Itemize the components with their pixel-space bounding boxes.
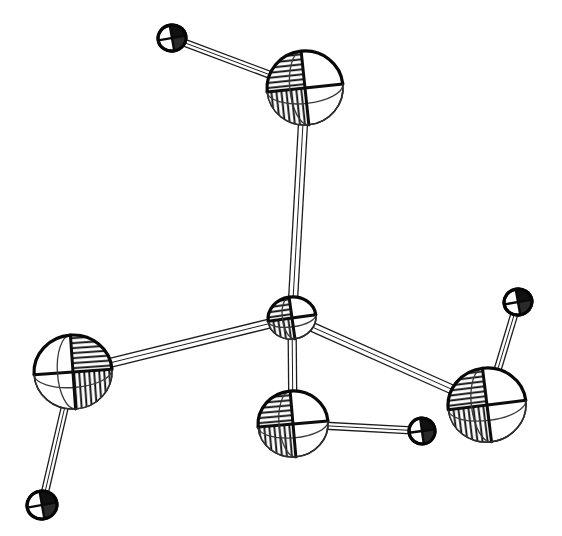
bond-a1-a3 xyxy=(101,317,281,370)
bond-rod-edge xyxy=(293,118,304,306)
bond-rod-edge xyxy=(101,317,278,361)
ortep-canvas xyxy=(0,0,562,536)
atom-h1-hydrogen xyxy=(156,23,188,53)
bond-rod-edge xyxy=(301,327,457,397)
atom-a1-ellipsoid xyxy=(265,294,318,342)
bond-rod-edge xyxy=(104,325,281,369)
atom-layer xyxy=(25,23,534,522)
bond-rod-edge xyxy=(305,319,461,389)
bond-rod-edge xyxy=(288,118,299,306)
atom-h4-hydrogen xyxy=(502,287,534,317)
atom-a5-ellipsoid xyxy=(444,364,530,447)
atom-a2-ellipsoid xyxy=(263,47,346,129)
bond-rod-edge xyxy=(297,118,308,306)
bond-rod-edge xyxy=(292,330,293,396)
atom-a3-ellipsoid xyxy=(32,332,115,411)
bond-a1-a2 xyxy=(288,118,308,306)
molecular-structure-figure xyxy=(0,0,562,536)
bond-rod-edge xyxy=(296,330,297,396)
bond-a1-a4 xyxy=(288,330,297,397)
bond-rod-edge xyxy=(103,321,280,365)
atom-a4-ellipsoid xyxy=(255,388,330,460)
bond-a1-a5 xyxy=(301,319,461,397)
bond-rod-edge xyxy=(303,323,459,393)
atom-h3-hydrogen xyxy=(407,416,436,445)
atom-h2-hydrogen xyxy=(25,489,59,522)
bond-rod-edge xyxy=(288,330,289,396)
